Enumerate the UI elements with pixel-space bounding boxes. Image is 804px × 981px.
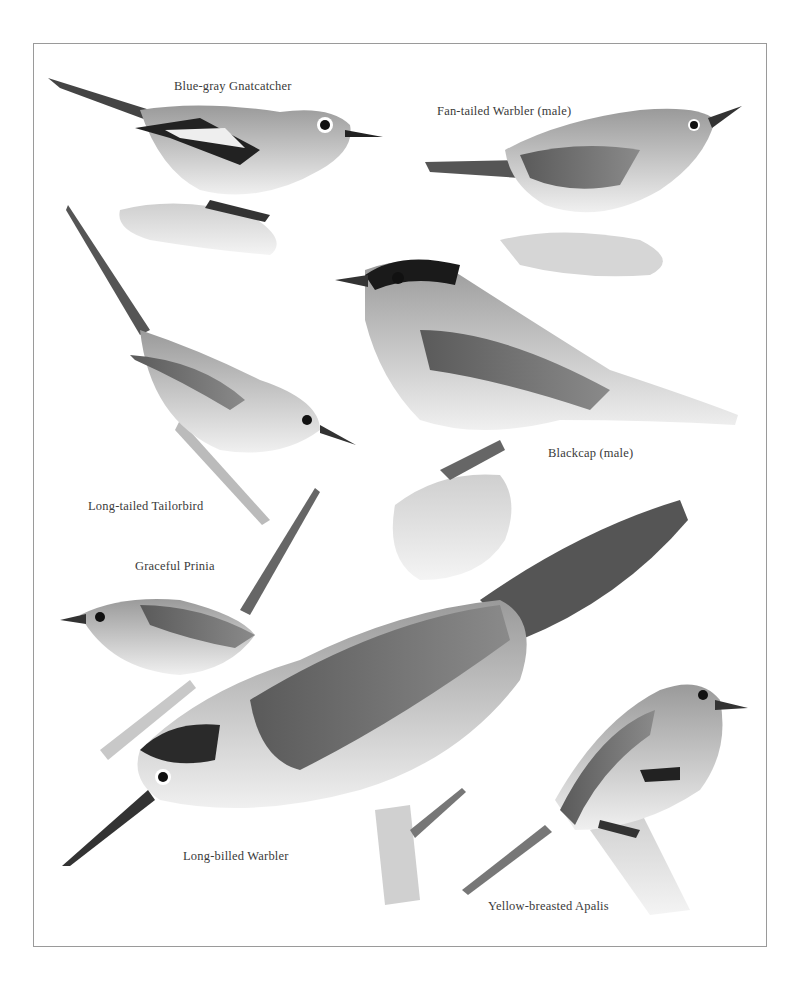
label-blackcap: Blackcap (male) — [548, 446, 633, 461]
bird-illustrations — [0, 0, 804, 981]
fan-tailed-warbler-illustration — [425, 106, 742, 276]
label-long-tailed-tailorbird: Long-tailed Tailorbird — [88, 499, 203, 514]
blue-gray-gnatcatcher-illustration — [48, 78, 383, 255]
blackcap-illustration — [335, 259, 738, 580]
label-fan-tailed-warbler: Fan-tailed Warbler (male) — [437, 104, 571, 119]
long-tailed-tailorbird-illustration — [66, 205, 356, 525]
label-graceful-prinia: Graceful Prinia — [135, 559, 215, 574]
label-yellow-breasted-apalis: Yellow-breasted Apalis — [488, 899, 609, 914]
yellow-breasted-apalis-illustration — [462, 684, 748, 915]
label-blue-gray-gnatcatcher: Blue-gray Gnatcatcher — [174, 79, 292, 94]
label-long-billed-warbler: Long-billed Warbler — [183, 849, 289, 864]
